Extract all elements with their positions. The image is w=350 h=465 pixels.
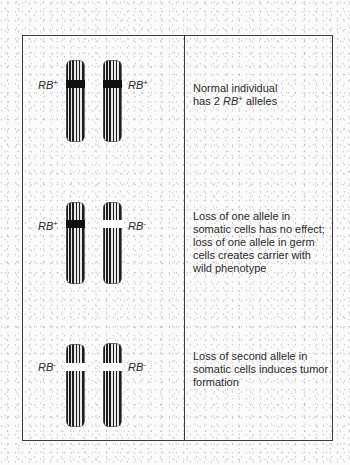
allele-label-right: RB- bbox=[128, 362, 146, 373]
chromosome-left bbox=[66, 202, 85, 284]
allele-label-right: RB- bbox=[128, 221, 146, 232]
description-line: Normal individual bbox=[193, 82, 331, 95]
chromosome-right bbox=[103, 202, 122, 284]
rb-band-present bbox=[66, 220, 85, 228]
description-line: has 2 RB+ alleles bbox=[193, 95, 331, 108]
rb-band-absent bbox=[103, 363, 122, 371]
allele-label-left: RB+ bbox=[38, 221, 58, 232]
rb-band-absent bbox=[66, 363, 85, 371]
rb-band-present bbox=[103, 80, 122, 88]
description-homozygous-loss: Loss of second allele in somatic cells i… bbox=[193, 350, 331, 389]
chromosome-left bbox=[66, 60, 85, 142]
rb-band-absent bbox=[103, 220, 122, 228]
column-divider bbox=[184, 35, 185, 441]
chromosome-left bbox=[66, 344, 85, 427]
allele-label-left: RB- bbox=[38, 362, 56, 373]
description-heterozygous: Loss of one allele in somatic cells has … bbox=[193, 210, 331, 275]
rb-band-present bbox=[66, 80, 85, 88]
allele-label-right: RB+ bbox=[128, 80, 148, 91]
description-normal: Normal individual has 2 RB+ alleles bbox=[193, 82, 331, 108]
chromosome-right bbox=[103, 60, 122, 142]
allele-label-left: RB+ bbox=[38, 80, 58, 91]
chromosome-right bbox=[103, 343, 122, 427]
